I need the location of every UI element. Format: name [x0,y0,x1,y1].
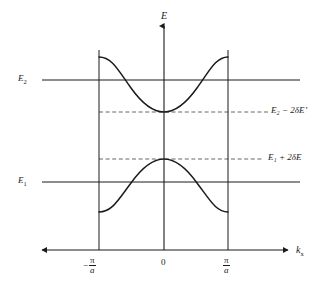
plot-canvas [0,0,326,289]
level-label-E2: E2 [18,74,27,85]
level-label-E1: E1 [18,176,27,187]
annotation-lower-gap: E₁ + 2δE [268,153,301,162]
annotation-upper-gap: E₂ − 2δE’ [271,106,307,115]
x-axis-label: kx [296,245,304,257]
band-diagram-figure: E2 E1 E₂ − 2δE’ E₁ + 2δE E kx 0 −πa πa [0,0,326,289]
x-tick-label-left: −πa [83,256,96,276]
x-tick-label-right: πa [223,256,230,276]
x-tick-label-origin: 0 [161,258,166,267]
y-axis-label: E [161,11,167,21]
